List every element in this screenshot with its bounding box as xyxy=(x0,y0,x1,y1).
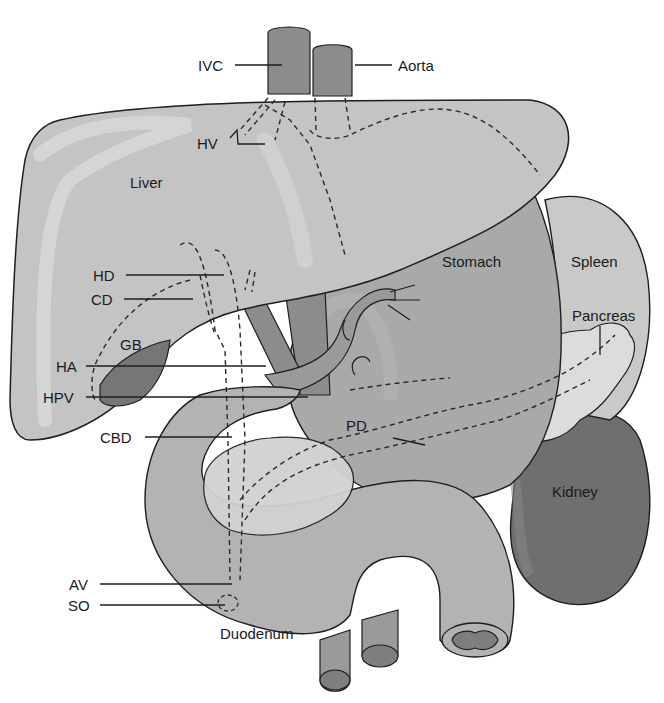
label-hpv: HPV xyxy=(43,390,74,405)
label-pd: PD xyxy=(346,418,367,433)
label-ha: HA xyxy=(56,359,77,374)
label-cbd: CBD xyxy=(100,430,132,445)
label-so: SO xyxy=(68,598,90,613)
label-ivc: IVC xyxy=(198,58,223,73)
label-aorta: Aorta xyxy=(398,58,434,73)
label-spleen: Spleen xyxy=(571,254,618,269)
label-av: AV xyxy=(69,577,88,592)
anatomy-diagram xyxy=(0,0,664,703)
label-hv: HV xyxy=(197,136,218,151)
liver xyxy=(0,0,664,703)
label-gb: GB xyxy=(120,337,142,352)
label-duodenum: Duodenum xyxy=(220,626,293,641)
label-liver: Liver xyxy=(130,175,163,190)
label-stomach: Stomach xyxy=(442,254,501,269)
label-pancreas: Pancreas xyxy=(572,308,635,323)
label-cd: CD xyxy=(91,292,113,307)
label-hd: HD xyxy=(93,268,115,283)
label-kidney: Kidney xyxy=(552,484,598,499)
